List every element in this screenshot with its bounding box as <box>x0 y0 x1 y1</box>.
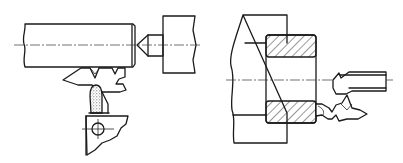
fixture-body <box>231 15 287 143</box>
ring-bottom-section <box>266 101 316 123</box>
tailstock-body <box>163 16 196 73</box>
boring-bar <box>333 72 386 94</box>
ring-workpiece <box>266 35 316 123</box>
shaft <box>23 24 135 67</box>
left-panel <box>14 16 200 155</box>
ring-top-section <box>266 35 316 57</box>
tool-holder <box>86 116 128 155</box>
technical-drawing <box>0 0 403 163</box>
right-panel <box>226 15 393 143</box>
center-point <box>137 35 163 56</box>
form-tool-right <box>316 95 367 121</box>
